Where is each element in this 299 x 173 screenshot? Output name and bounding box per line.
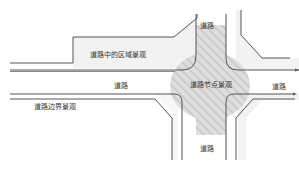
main-road-label: 道路	[114, 82, 128, 90]
road-landscape-diagram: 道路中的区域景观 道路 道路 道路 道路 道路节点景观 道路边界景观	[0, 0, 299, 173]
bottom-road-label: 道路	[200, 145, 214, 153]
node-landscape-label: 道路节点景观	[190, 81, 232, 89]
diagram-graphics	[0, 0, 299, 173]
right-road-label: 道路	[272, 83, 286, 91]
inner-area-label: 道路中的区域景观	[90, 51, 146, 59]
top-road-label: 道路	[200, 22, 214, 30]
node-vertical-hatch-bottom	[196, 115, 226, 135]
inner-area-zone	[73, 18, 197, 68]
edge-landscape-label: 道路边界景观	[34, 103, 76, 111]
lower-right-zone	[238, 94, 299, 160]
